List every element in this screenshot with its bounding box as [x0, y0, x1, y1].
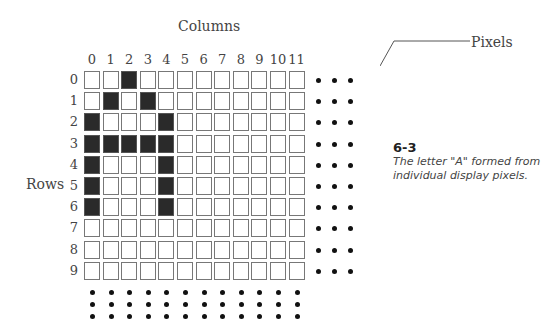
continuation-dot — [316, 163, 321, 168]
continuation-dot — [220, 290, 225, 295]
continuation-dot — [90, 314, 95, 319]
continuation-dot — [90, 290, 95, 295]
pixel — [177, 92, 193, 110]
pixel — [270, 113, 286, 131]
pixel — [158, 262, 174, 280]
lit-pixel — [103, 92, 119, 110]
pixel — [158, 219, 174, 237]
continuation-dot — [348, 142, 353, 147]
row-label: 8 — [68, 242, 80, 257]
continuation-dot — [332, 184, 337, 189]
pixel — [121, 156, 137, 174]
continuation-dot — [127, 290, 132, 295]
continuation-dot — [257, 314, 262, 319]
pixels-label: Pixels — [471, 34, 513, 50]
pixel — [251, 198, 267, 216]
pixel — [270, 198, 286, 216]
pixel — [196, 113, 212, 131]
pixel — [103, 241, 119, 259]
column-label: 9 — [250, 52, 268, 67]
continuation-dot — [220, 302, 225, 307]
continuation-dot — [183, 290, 188, 295]
pixel — [233, 135, 249, 153]
continuation-dot — [127, 314, 132, 319]
continuation-dot — [295, 314, 300, 319]
continuation-dot — [127, 302, 132, 307]
pixel — [289, 241, 305, 259]
pixel — [270, 71, 286, 89]
continuation-dot — [348, 248, 353, 253]
continuation-dot — [146, 290, 151, 295]
continuation-dot — [202, 314, 207, 319]
pixel — [140, 219, 156, 237]
pixel — [270, 177, 286, 195]
lit-pixel — [84, 135, 100, 153]
pixel — [233, 71, 249, 89]
pixel — [289, 135, 305, 153]
continuation-dot — [348, 120, 353, 125]
column-label: 1 — [102, 52, 120, 67]
continuation-dot — [316, 184, 321, 189]
pixel — [140, 241, 156, 259]
pixel — [251, 92, 267, 110]
pixel — [251, 71, 267, 89]
lit-pixel — [103, 135, 119, 153]
pixel — [158, 71, 174, 89]
continuation-dot — [295, 290, 300, 295]
pixel — [196, 135, 212, 153]
pixel — [214, 198, 230, 216]
row-label: 6 — [68, 199, 80, 214]
pixel — [289, 219, 305, 237]
pixel — [196, 156, 212, 174]
continuation-dot — [239, 314, 244, 319]
pixel — [177, 198, 193, 216]
continuation-dot — [316, 226, 321, 231]
continuation-dot — [332, 248, 337, 253]
continuation-dot — [332, 163, 337, 168]
continuation-dot — [202, 290, 207, 295]
pixel — [103, 71, 119, 89]
continuation-dot — [146, 314, 151, 319]
continuation-dot — [332, 205, 337, 210]
pixel — [103, 156, 119, 174]
continuation-dot — [109, 290, 114, 295]
pixel — [289, 262, 305, 280]
column-label: 11 — [288, 52, 306, 67]
continuation-dot — [348, 99, 353, 104]
caption-number: 6-3 — [393, 140, 417, 155]
column-label: 8 — [232, 52, 250, 67]
lit-pixel — [158, 113, 174, 131]
pixel — [233, 156, 249, 174]
lit-pixel — [121, 71, 137, 89]
pixel — [140, 156, 156, 174]
pixel — [251, 219, 267, 237]
pixel — [177, 219, 193, 237]
pixel — [196, 71, 212, 89]
continuation-dot — [348, 205, 353, 210]
continuation-dot — [164, 290, 169, 295]
column-label: 4 — [157, 52, 175, 67]
pixel — [121, 262, 137, 280]
pixel — [270, 219, 286, 237]
continuation-dot — [316, 269, 321, 274]
pixel — [270, 135, 286, 153]
continuation-dot — [90, 302, 95, 307]
row-label: 4 — [68, 157, 80, 172]
row-label: 3 — [68, 136, 80, 151]
continuation-dot — [239, 302, 244, 307]
column-label: 5 — [176, 52, 194, 67]
pixel — [158, 241, 174, 259]
row-label: 7 — [68, 220, 80, 235]
pixel — [214, 241, 230, 259]
pixel — [158, 92, 174, 110]
pixel — [177, 135, 193, 153]
column-label: 7 — [213, 52, 231, 67]
pixel — [214, 113, 230, 131]
pixel — [233, 92, 249, 110]
pixel — [84, 219, 100, 237]
continuation-dot — [295, 302, 300, 307]
lit-pixel — [158, 156, 174, 174]
continuation-dot — [257, 290, 262, 295]
continuation-dot — [332, 120, 337, 125]
pixel — [177, 113, 193, 131]
